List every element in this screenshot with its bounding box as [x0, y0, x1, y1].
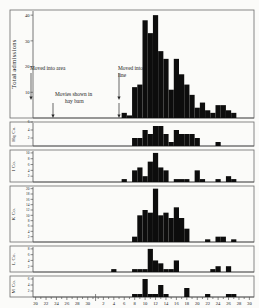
y-tick-label-k-company-18: 18 — [26, 192, 30, 196]
y-tick-label-hq-company-6: 6 — [28, 120, 30, 124]
annotation-moved-into-area-arrowhead — [29, 97, 32, 100]
x-tick-label-A16: 16 — [174, 301, 179, 306]
bar-total-admissions-A16 — [174, 59, 179, 118]
bar-k-company-A22 — [205, 239, 210, 242]
x-tick-label-A22: 22 — [205, 301, 210, 306]
bar-i-company-A6 — [122, 179, 127, 182]
bar-i-company-A27 — [231, 179, 236, 182]
x-tick-label-A18: 18 — [185, 301, 190, 306]
annotation-movies-hay-barn-label-1: Movies shown in — [55, 91, 92, 97]
y-tick-label-k-company-8: 8 — [28, 219, 30, 223]
y-tick-label-l-company-6: 6 — [28, 253, 30, 257]
x-tick-label-M20: 20 — [33, 301, 38, 306]
bar-i-company-A8 — [132, 170, 137, 182]
x-tick-label-A20: 20 — [195, 301, 200, 306]
panel-label-i-company: I Co. — [11, 161, 16, 172]
bar-total-admissions-A19 — [189, 95, 194, 118]
bar-hq-company-A10 — [143, 130, 148, 146]
bar-total-admissions-A26 — [226, 110, 231, 118]
annotation-moved-into-area-label: Moved into area — [30, 65, 66, 71]
y-tick-label-i-company-4: 4 — [28, 169, 30, 173]
bar-k-company-A25 — [221, 237, 226, 242]
annotation-moved-into-line-label-1: Moved into — [118, 65, 143, 71]
y-axis-label: Total admissions — [10, 39, 17, 89]
bar-m-company-A10 — [143, 279, 148, 297]
bar-i-company-A20 — [195, 170, 200, 182]
y-tick-label-hq-company-4: 4 — [28, 128, 30, 132]
x-tick-label-A12: 12 — [153, 301, 158, 306]
x-tick-label-M26: 26 — [65, 301, 70, 306]
y-tick-label-total-admissions-40: 40 — [25, 13, 30, 18]
bar-l-company-A10 — [143, 269, 148, 272]
bar-i-company-A14 — [163, 170, 168, 182]
y-tick-label-i-company-8: 8 — [28, 157, 30, 161]
bar-k-company-A11 — [148, 213, 153, 242]
y-tick-label-k-company-2: 2 — [28, 235, 30, 239]
x-tick-label-A14: 14 — [164, 301, 169, 306]
annotation-movies-hay-barn-arrowhead-2 — [117, 115, 120, 118]
bar-i-company-A18 — [184, 179, 189, 182]
bar-hq-company-A18 — [184, 134, 189, 146]
bar-l-company-A26 — [226, 266, 231, 272]
panel-label-l-company: L Co. — [11, 253, 16, 265]
bar-k-company-A27 — [231, 239, 236, 242]
panel-frame-i-company — [10, 150, 254, 182]
bar-l-company-A8 — [132, 269, 137, 272]
bar-total-admissions-A14 — [163, 59, 168, 118]
bar-hq-company-A17 — [179, 134, 184, 146]
bar-m-company-A9 — [137, 294, 142, 297]
bar-hq-company-A13 — [158, 126, 163, 146]
bar-total-admissions-A15 — [169, 90, 174, 118]
x-tick-label-A8: 8 — [134, 301, 137, 306]
bar-total-admissions-A17 — [179, 74, 184, 118]
bar-i-company-A10 — [143, 176, 148, 182]
bar-total-admissions-A18 — [184, 85, 189, 118]
bar-i-company-A12 — [153, 153, 158, 182]
x-tick-label-A6: 6 — [123, 301, 126, 306]
bar-l-company-A13 — [158, 263, 163, 272]
y-tick-label-i-company-2: 2 — [28, 174, 30, 178]
bar-i-company-A26 — [226, 176, 231, 182]
y-tick-label-m-company-4: 4 — [28, 283, 30, 287]
y-tick-label-k-company-10: 10 — [26, 214, 30, 218]
bar-hq-company-A15 — [169, 142, 174, 146]
y-tick-label-hq-company-2: 2 — [28, 136, 30, 140]
bar-k-company-A8 — [132, 237, 137, 242]
bar-total-admissions-A10 — [143, 20, 148, 118]
bar-total-admissions-A20 — [195, 108, 200, 118]
y-tick-label-l-company-4: 4 — [28, 259, 30, 263]
bar-total-admissions-A8 — [132, 87, 137, 118]
bar-total-admissions-A9 — [137, 85, 142, 118]
panel-frame-m-company — [10, 276, 254, 297]
bar-hq-company-A11 — [148, 134, 153, 146]
bar-k-company-A15 — [169, 218, 174, 242]
bar-total-admissions-A22 — [205, 110, 210, 118]
chart-canvas: 10203040Total admissions246Hq Co.246810I… — [0, 0, 259, 308]
bar-l-company-A4 — [111, 269, 116, 272]
bar-l-company-A12 — [153, 260, 158, 272]
x-tick-label-A2: 2 — [102, 301, 105, 306]
bar-i-company-A16 — [174, 179, 179, 182]
bar-m-company-A12 — [153, 294, 158, 297]
bar-total-admissions-A24 — [216, 105, 221, 118]
bar-l-company-A15 — [169, 269, 174, 272]
bar-hq-company-A16 — [174, 130, 179, 146]
bar-m-company-A18 — [184, 288, 189, 297]
x-tick-label-A10: 10 — [143, 301, 148, 306]
annotation-moved-into-line-arrowhead — [117, 97, 120, 100]
panel-label-hq-company: Hq Co. — [11, 126, 16, 142]
bar-hq-company-A24 — [216, 142, 221, 146]
panel-frame-k-company — [10, 186, 254, 242]
panel-label-m-company: M Co. — [11, 280, 16, 294]
panel-frame-total-admissions — [10, 10, 254, 118]
x-tick-label-A28: 28 — [237, 301, 242, 306]
bar-total-admissions-A25 — [221, 105, 226, 118]
bar-total-admissions-A6 — [122, 113, 127, 118]
bar-m-company-A22 — [205, 294, 210, 297]
bar-l-company-A24 — [216, 266, 221, 272]
bar-hq-company-A14 — [163, 134, 168, 146]
y-tick-label-l-company-2: 2 — [28, 265, 30, 269]
y-tick-label-k-company-20: 20 — [26, 187, 30, 191]
y-tick-label-total-admissions-10: 10 — [25, 90, 30, 95]
bar-i-company-A13 — [158, 167, 163, 182]
